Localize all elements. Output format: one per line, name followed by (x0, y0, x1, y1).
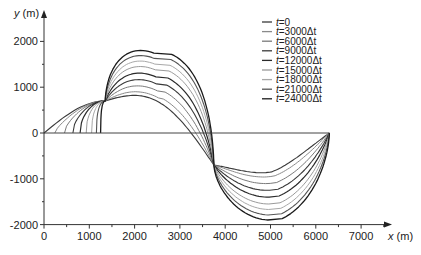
axes: -2000-1000010002000010002000300040005000… (10, 7, 413, 242)
x-tick-label: 4000 (213, 230, 237, 242)
x-tick-label: 5000 (258, 230, 282, 242)
y-tick-label: 0 (32, 127, 38, 139)
x-axis-title: x (m) (387, 230, 413, 242)
x-tick-label: 1000 (77, 230, 101, 242)
x-tick-label: 7000 (349, 230, 373, 242)
legend-label: t=24000Δt (276, 93, 322, 104)
x-tick-label: 0 (41, 230, 47, 242)
y-axis-title: y (m) (13, 7, 39, 19)
x-tick-label: 6000 (304, 230, 328, 242)
curve-t-0 (44, 95, 329, 172)
y-tick-label: -1000 (10, 173, 38, 185)
legend: t=0t=3000Δtt=6000Δtt=9000Δtt=12000Δtt=15… (262, 17, 322, 105)
x-tick-label: 2000 (122, 230, 146, 242)
wave-profile-chart: -2000-1000010002000010002000300040005000… (0, 0, 421, 255)
x-tick-label: 3000 (168, 230, 192, 242)
x-axis-arrow-icon (384, 222, 392, 228)
y-tick-label: 2000 (14, 35, 38, 47)
y-axis-arrow-icon (41, 10, 47, 18)
y-tick-label: 1000 (14, 81, 38, 93)
y-tick-label: -2000 (10, 219, 38, 231)
